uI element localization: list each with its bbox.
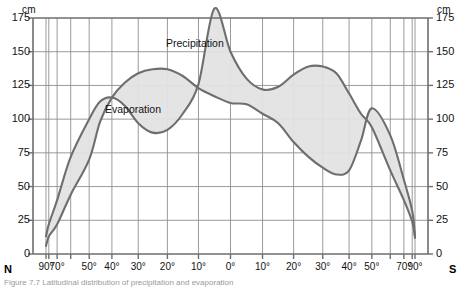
y-tick-label-right: 75 [436, 147, 463, 158]
x-tick-label: 20° [160, 262, 175, 272]
y-tick-label-right: 0 [436, 248, 463, 259]
y-tick-label-left: 150 [0, 46, 30, 57]
figure-caption: Figure 7.7 Latitudinal distribution of p… [4, 279, 459, 287]
y-tick-label-left: 50 [0, 181, 30, 192]
y-tick-label-left: 175 [0, 12, 30, 23]
y-tick-label-left: 75 [0, 147, 30, 158]
x-tick-label: 10° [191, 262, 206, 272]
y-tick-label-right: 175 [436, 12, 463, 23]
evaporation-label: Evaporation [105, 104, 161, 115]
precipitation-label: Precipitation [166, 38, 224, 49]
y-tick-label-right: 125 [436, 79, 463, 90]
x-tick-label: 30° [315, 262, 330, 272]
x-tick-label: 20° [286, 262, 301, 272]
y-tick-label-left: 0 [0, 248, 30, 259]
x-tick-label: 0° [226, 262, 236, 272]
x-tick-label: 90° [407, 262, 422, 272]
x-tick-label: 50° [364, 262, 379, 272]
x-tick-label: 50° [82, 262, 97, 272]
south-pole-label: S [449, 264, 456, 275]
x-tick-label: 10° [255, 262, 270, 272]
x-tick-label: 40° [342, 262, 357, 272]
y-tick-label-left: 25 [0, 214, 30, 225]
y-tick-label-right: 150 [436, 46, 463, 57]
y-tick-label-left: 100 [0, 113, 30, 124]
x-tick-label: 70° [50, 262, 65, 272]
y-tick-label-right: 25 [436, 214, 463, 225]
north-pole-label: N [4, 264, 12, 275]
x-tick-label: 30° [131, 262, 146, 272]
y-tick-label-left: 125 [0, 79, 30, 90]
x-tick-label: 40° [104, 262, 119, 272]
y-tick-label-right: 100 [436, 113, 463, 124]
y-tick-label-right: 50 [436, 181, 463, 192]
